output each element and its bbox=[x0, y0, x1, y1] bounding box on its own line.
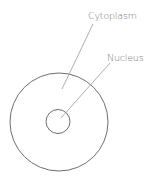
nucleus-label: Nucleus bbox=[107, 52, 144, 63]
cytoplasm-label: Cytoplasm bbox=[88, 10, 137, 21]
cell-membrane-outer-circle bbox=[10, 73, 108, 171]
cell-diagram: Cytoplasm Nucleus bbox=[0, 0, 150, 178]
cytoplasm-leader-line bbox=[62, 24, 93, 89]
nucleus-circle bbox=[46, 110, 70, 134]
nucleus-leader-line bbox=[61, 63, 110, 118]
